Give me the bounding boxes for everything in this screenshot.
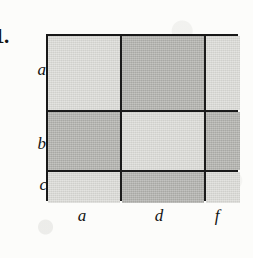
col-label-f: f xyxy=(205,206,229,226)
grid-cell-b-f xyxy=(206,112,240,170)
grid-cell-a-a xyxy=(48,36,120,110)
row-label-b: b xyxy=(26,134,46,154)
grid-cell-c-f xyxy=(206,172,240,203)
shaded-grid xyxy=(46,34,238,201)
problem-number: 1. xyxy=(0,24,9,49)
col-label-a: a xyxy=(70,206,94,226)
grid-cell-c-d xyxy=(122,172,204,203)
figure-root: 1. a b c a d f xyxy=(0,0,253,258)
grid-cell-a-f xyxy=(206,36,240,110)
col-label-d: d xyxy=(147,206,171,226)
grid-cell-c-a xyxy=(48,172,120,203)
row-label-c: c xyxy=(27,175,47,195)
row-label-a: a xyxy=(26,60,46,80)
grid-cell-a-d xyxy=(122,36,204,110)
grid-cell-b-a xyxy=(48,112,120,170)
grid-cell-b-d xyxy=(122,112,204,170)
